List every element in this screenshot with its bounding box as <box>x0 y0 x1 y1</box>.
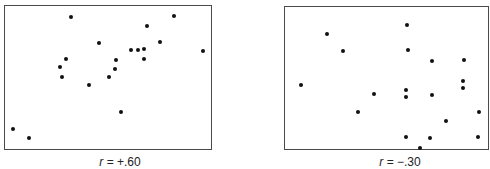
data-point <box>64 57 68 61</box>
data-point <box>60 75 64 79</box>
data-point <box>119 110 123 114</box>
data-point <box>158 40 162 44</box>
data-point <box>461 86 465 90</box>
data-point <box>129 48 133 52</box>
data-point <box>404 135 408 139</box>
data-point <box>372 92 376 96</box>
data-point <box>406 48 410 52</box>
data-point <box>136 48 140 52</box>
scatter-plot-left <box>4 5 212 150</box>
data-point <box>114 58 118 62</box>
r-value: = −.30 <box>387 155 421 169</box>
correlation-caption-right: r = −.30 <box>379 155 420 169</box>
data-point <box>428 136 432 140</box>
data-point <box>58 65 62 69</box>
data-point <box>430 93 434 97</box>
data-point <box>11 127 15 131</box>
data-point <box>201 49 205 53</box>
data-point <box>87 83 91 87</box>
data-point <box>461 79 465 83</box>
r-value: = +.60 <box>107 155 141 169</box>
data-point <box>404 95 408 99</box>
data-point <box>477 110 481 114</box>
data-point <box>405 23 409 27</box>
r-symbol: r <box>99 155 103 169</box>
data-point <box>476 135 480 139</box>
data-point <box>418 146 422 150</box>
scatter-plot-right <box>284 6 489 150</box>
data-point <box>97 41 101 45</box>
data-point <box>444 119 448 123</box>
data-point <box>107 75 111 79</box>
data-point <box>325 32 329 36</box>
correlation-caption-left: r = +.60 <box>99 155 140 169</box>
data-point <box>462 58 466 62</box>
r-symbol: r <box>379 155 383 169</box>
data-point <box>113 67 117 71</box>
data-point <box>27 136 31 140</box>
data-point <box>69 15 73 19</box>
data-point <box>172 14 176 18</box>
data-point <box>142 57 146 61</box>
data-point <box>404 88 408 92</box>
data-point <box>341 49 345 53</box>
data-point <box>299 83 303 87</box>
data-point <box>356 110 360 114</box>
data-point <box>430 59 434 63</box>
data-point <box>145 24 149 28</box>
data-point <box>142 47 146 51</box>
